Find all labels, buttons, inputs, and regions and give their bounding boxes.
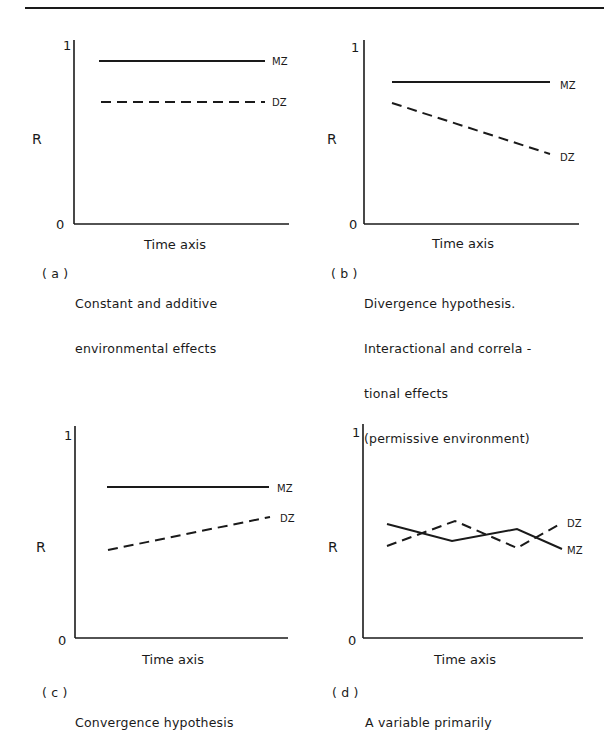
dz-label: DZ (567, 518, 582, 529)
chart-d: 1 0 R Time axis DZ MZ (0, 0, 604, 756)
mz-label: MZ (567, 545, 583, 556)
panel-d: 1 0 R Time axis DZ MZ ( d ) A variable p… (0, 0, 604, 756)
caption-tag: ( d ) (332, 685, 359, 700)
x-label: Time axis (433, 652, 496, 667)
y-label: R (328, 539, 338, 555)
y-top-tick: 1 (352, 425, 360, 440)
caption-d: ( d ) A variable primarily controlled by… (332, 685, 602, 740)
caption-line: A variable primarily (365, 715, 511, 730)
y-bottom-tick: 0 (348, 633, 356, 648)
dz-line (387, 521, 562, 548)
